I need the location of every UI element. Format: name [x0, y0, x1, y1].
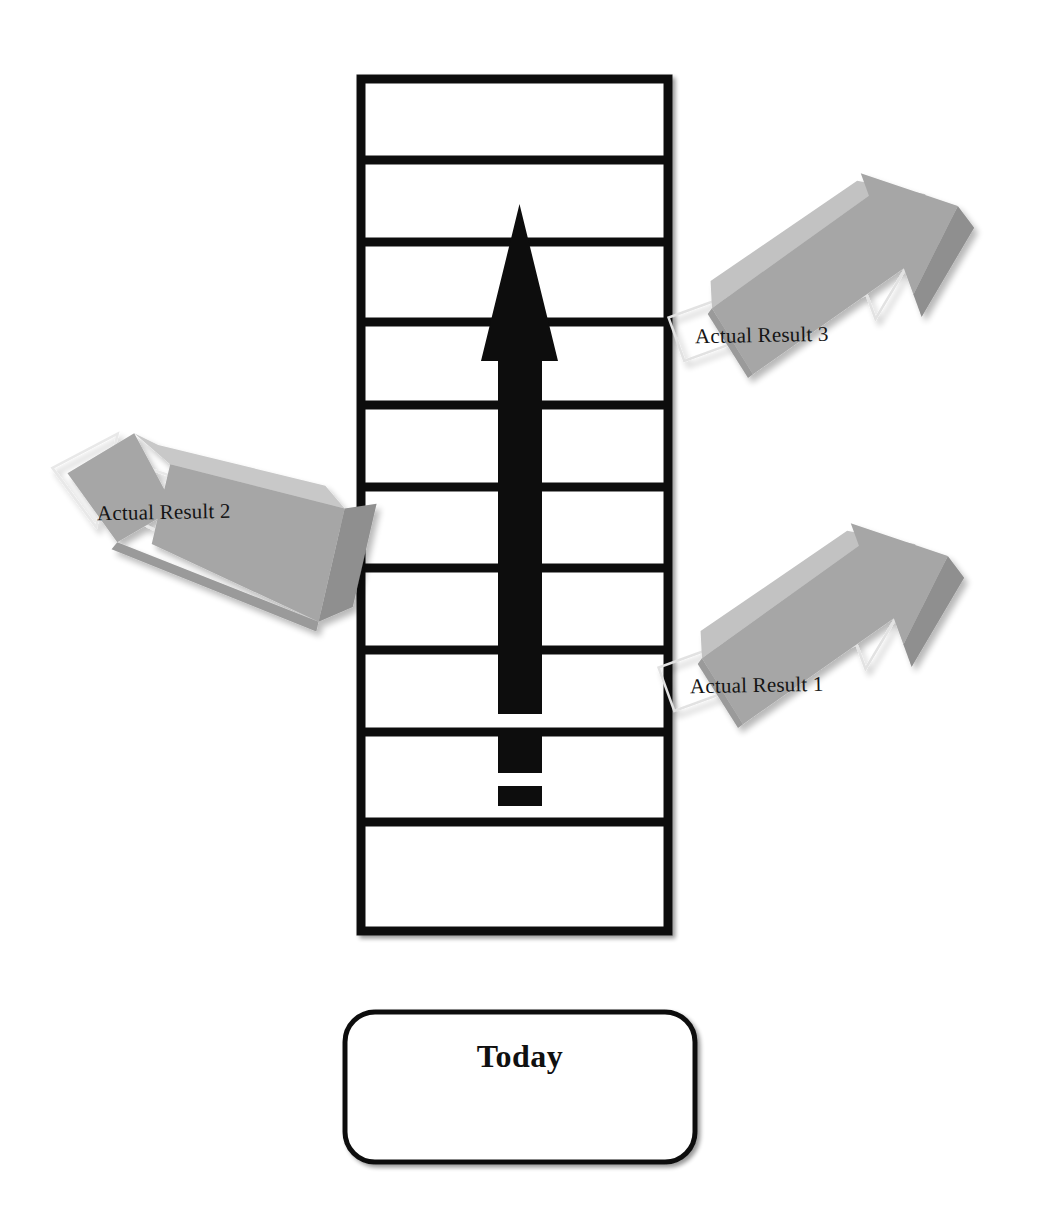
progress-arrow-dash — [498, 729, 542, 773]
callout-actual-result-3[interactable] — [645, 143, 997, 398]
today-box-shape — [345, 1012, 695, 1162]
callout-actual-result-2[interactable] — [30, 417, 380, 638]
progress-arrow-dash — [498, 786, 542, 806]
callout-actual-result-1[interactable] — [635, 493, 987, 748]
callout-label-actual-result-1: Actual Result 1 — [690, 672, 824, 699]
today-box[interactable] — [345, 1012, 695, 1162]
callout-label-actual-result-2: Actual Result 2 — [97, 499, 231, 526]
today-box-label: Today — [345, 1038, 695, 1075]
callout-label-actual-result-3: Actual Result 3 — [695, 322, 829, 349]
